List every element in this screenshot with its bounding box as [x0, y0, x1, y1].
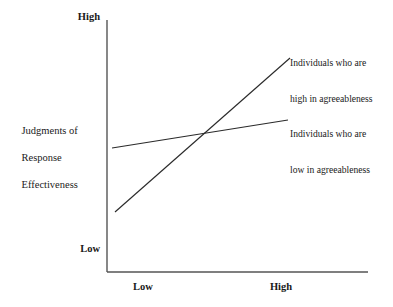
series-label-high-line-1: Individuals who are	[290, 57, 393, 69]
y-axis-title-line-2: Response	[22, 152, 62, 163]
y-axis-title: Judgments of Response Effectiveness	[11, 110, 103, 205]
y-axis-tick-low: Low	[62, 243, 100, 255]
series-label-low-line-1: Individuals who are	[290, 128, 393, 140]
x-axis-tick-low: Low	[118, 281, 168, 293]
y-axis-title-line-3: Effectiveness	[22, 179, 78, 190]
series-label-low-line-2: low in agreeableness	[290, 164, 393, 176]
series-line-low-agreeableness	[112, 120, 288, 148]
y-axis-title-line-1: Judgments of	[22, 125, 78, 136]
x-axis-tick-high: High	[256, 281, 306, 293]
series-line-high-agreeableness	[115, 58, 290, 212]
series-label-low-agreeableness: Individuals who are low in agreeableness	[290, 104, 393, 200]
y-axis-tick-high: High	[62, 11, 100, 23]
chart-figure: Judgments of Response Effectiveness High…	[0, 0, 393, 307]
